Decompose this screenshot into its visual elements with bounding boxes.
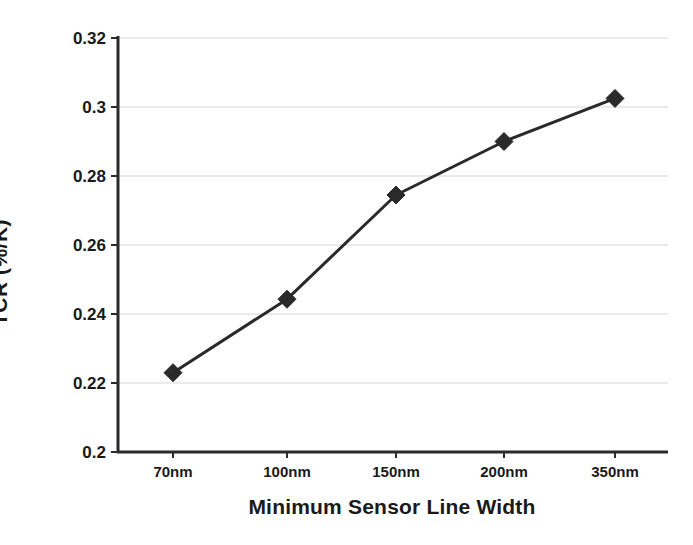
y-tick-label-2: 0.28	[73, 167, 106, 186]
y-tick-labels: 0.32 0.3 0.28 0.26 0.24 0.22 0.2	[73, 29, 107, 462]
series-line-tcr	[173, 98, 615, 372]
y-tick-label-6: 0.2	[82, 443, 106, 462]
x-tick-label-4: 350nm	[591, 463, 639, 480]
data-point-350nm	[606, 89, 624, 107]
x-tick-label-3: 200nm	[480, 463, 528, 480]
x-tick-label-0: 70nm	[153, 463, 192, 480]
series-markers-tcr	[164, 89, 624, 381]
y-tick-label-1: 0.3	[82, 98, 106, 117]
x-tick-label-2: 150nm	[372, 463, 420, 480]
x-tick-labels: 70nm 100nm 150nm 200nm 350nm	[153, 463, 638, 480]
gridlines	[118, 38, 668, 383]
data-series-tcr	[164, 89, 624, 381]
y-tick-label-4: 0.24	[73, 305, 107, 324]
chart-figure: TCR (%/K)	[0, 0, 693, 545]
data-point-70nm	[164, 364, 182, 382]
y-tick-label-3: 0.26	[73, 236, 106, 255]
x-axis-title: Minimum Sensor Line Width	[116, 495, 668, 519]
y-tick-label-5: 0.22	[73, 374, 106, 393]
y-tick-label-0: 0.32	[73, 29, 106, 48]
line-chart-plot: 0.32 0.3 0.28 0.26 0.24 0.22 0.2 70nm 10…	[0, 0, 693, 545]
x-tick-label-1: 100nm	[263, 463, 311, 480]
data-point-200nm	[495, 133, 513, 151]
